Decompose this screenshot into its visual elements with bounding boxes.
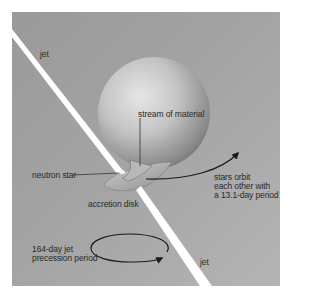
stream-of-material-label: stream of material: [138, 109, 204, 119]
neutron-star-label: neutron star: [32, 170, 76, 180]
jet-label-bottom: jet: [200, 257, 209, 267]
jet-label-top: jet: [40, 49, 49, 59]
orbit-period-label-line3: a 13.1-day period: [214, 190, 278, 200]
precession-arrow: [91, 234, 168, 262]
precession-label-line2: precession period: [32, 253, 97, 263]
neutron-star-leader-line: [73, 173, 119, 175]
accretion-disk-label: accretion disk: [88, 199, 139, 209]
neutron-star: [119, 170, 125, 174]
